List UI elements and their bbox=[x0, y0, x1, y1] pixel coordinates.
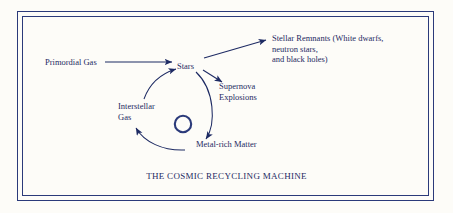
node-stellar-remnants: Stellar Remnants (White dwarfs, neutron … bbox=[272, 33, 383, 65]
node-metal-rich-matter: Metal-rich Matter bbox=[196, 139, 257, 150]
arrow-stars-to-remnants bbox=[204, 40, 266, 58]
arrow-cycle-stars-to-metals bbox=[196, 72, 212, 139]
recycling-hub-ring-outer bbox=[175, 116, 191, 132]
node-primordial-gas: Primordial Gas bbox=[45, 57, 97, 68]
diagram-page: Primordial Gas Stars Stellar Remnants (W… bbox=[0, 0, 453, 213]
diagram-caption: THE COSMIC RECYCLING MACHINE bbox=[0, 171, 453, 181]
node-stars: Stars bbox=[177, 61, 194, 72]
node-interstellar-gas: Interstellar Gas bbox=[118, 101, 155, 122]
recycling-hub-ring-inner bbox=[178, 119, 188, 129]
node-supernova-explosions: Supernova Explosions bbox=[219, 81, 257, 102]
diagram-arrows-layer bbox=[0, 0, 453, 213]
arrow-cycle-interstellar-to-stars bbox=[144, 69, 176, 99]
